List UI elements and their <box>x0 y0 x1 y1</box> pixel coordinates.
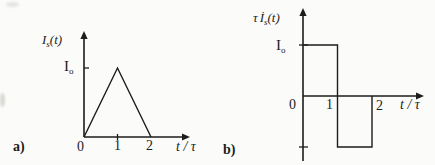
plot-b-caption: b) <box>223 143 235 157</box>
plot-b-ytick-label: Io <box>276 38 286 53</box>
y-axis-arrow-a <box>80 31 87 39</box>
plot-b-y-axis-label: τİs(t) <box>253 11 280 24</box>
plot-a-caption: a) <box>13 140 25 154</box>
figure-two-plots: Is(t) Io 0 1 2 t / τ a) τİs(t) Io 0 1 2 … <box>0 0 435 165</box>
plot-b-xtick-2: 2 <box>376 99 383 113</box>
plot-a-x-axis-label: t / τ <box>176 140 196 154</box>
plots-canvas <box>0 0 435 165</box>
tau-symbol: τ <box>253 10 258 25</box>
plot-a-ytick-label: Io <box>64 59 74 74</box>
plot-a-y-axis-label: Is(t) <box>42 33 62 46</box>
amplitude-subscript: o <box>69 66 74 76</box>
amplitude-subscript: o <box>281 45 286 55</box>
plot-b-x-axis-label: t / τ <box>400 98 420 112</box>
time-argument: (t) <box>50 32 62 47</box>
plot-b-xtick-1: 1 <box>326 98 333 112</box>
y-axis-arrow-b <box>299 8 306 16</box>
plot-a-xtick-1: 1 <box>114 139 121 153</box>
plot-a-xtick-0: 0 <box>77 140 84 154</box>
plot-a-xtick-2: 2 <box>146 139 153 153</box>
time-argument: (t) <box>268 10 280 25</box>
plot-b-xtick-0: 0 <box>289 98 296 112</box>
waveform-a <box>84 68 151 137</box>
